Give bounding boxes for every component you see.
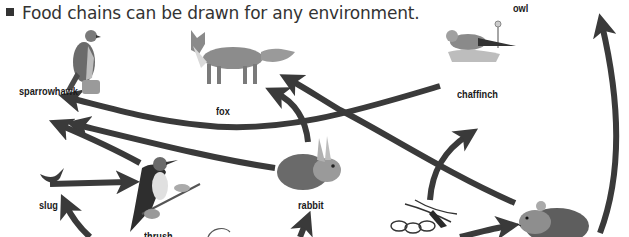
arrow-plant-to-slug bbox=[66, 205, 90, 237]
arrow-seeds-to-mouse bbox=[460, 226, 508, 237]
label-sparrowhawk: sparrowhawk bbox=[19, 86, 78, 97]
rabbit-illustration bbox=[275, 136, 355, 194]
seeds-illustration bbox=[385, 196, 465, 237]
label-owl: owl bbox=[513, 3, 528, 14]
label-rabbit: rabbit bbox=[298, 200, 324, 211]
arrow-mouse-to-owl bbox=[600, 25, 616, 233]
arrow-rabbit-to-fox bbox=[276, 93, 308, 142]
label-slug: slug bbox=[39, 200, 58, 211]
mouse-illustration bbox=[513, 196, 593, 237]
thrush-illustration bbox=[112, 152, 202, 232]
arrow-plant-to-rabbit bbox=[300, 222, 306, 237]
label-chaffinch: chaffinch bbox=[457, 89, 498, 100]
food-chain-diagram: Food chains can be drawn for any environ… bbox=[0, 0, 629, 237]
label-fox: fox bbox=[216, 106, 230, 117]
plant-illustration bbox=[206, 226, 232, 237]
fox-illustration bbox=[183, 28, 298, 88]
chaffinch-illustration bbox=[438, 20, 520, 64]
label-thrush: thrush bbox=[144, 231, 173, 237]
arrow-chaffinch-to-sparrowhawk bbox=[70, 86, 440, 127]
slug-illustration bbox=[38, 166, 66, 188]
